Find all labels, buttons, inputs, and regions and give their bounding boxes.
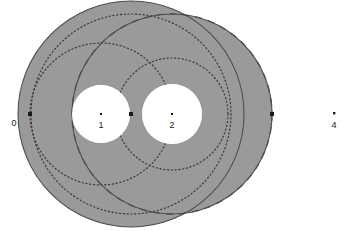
point-label-2: 2 [166, 121, 178, 130]
x-marker-tangent [129, 112, 133, 116]
point-label-1: 1 [95, 121, 107, 130]
x-marker-0 [28, 112, 32, 116]
point-label-0: 0 [8, 119, 20, 128]
dot-marker-4 [333, 112, 335, 114]
point-label-4: 4 [328, 121, 340, 130]
circle-inversion-diagram [0, 0, 348, 231]
dot-marker-2 [171, 113, 173, 115]
figure-canvas: 0 1 2 4 [0, 0, 348, 231]
dot-marker-1 [100, 113, 102, 115]
x-marker-right [270, 112, 274, 116]
